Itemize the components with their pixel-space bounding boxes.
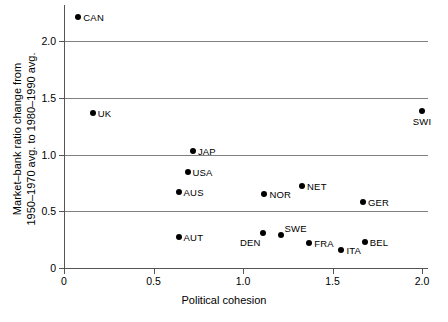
data-point-label: BEL — [370, 236, 389, 247]
data-point — [75, 14, 81, 20]
x-tick — [154, 269, 155, 274]
gridline-y — [64, 98, 428, 99]
y-axis-line — [64, 5, 65, 269]
data-point — [261, 191, 267, 197]
x-tick-label: 1.5 — [325, 275, 340, 287]
y-axis-title: Market–bank ratio change from 1950–1970 … — [10, 0, 38, 279]
data-point — [278, 232, 284, 238]
data-point — [306, 240, 312, 246]
data-point-label: FRA — [314, 238, 334, 249]
data-point-label: AUS — [184, 186, 204, 197]
data-point — [362, 239, 368, 245]
data-point — [419, 108, 425, 114]
y-tick-label: 1.5 — [41, 92, 56, 104]
data-point-label: JAP — [198, 146, 216, 157]
data-point — [360, 199, 366, 205]
data-point-label: SWE — [285, 223, 307, 234]
y-tick-label: 2.0 — [41, 35, 56, 47]
y-axis-title-line2: 1950–1970 avg. to 1980–1990 avg. — [24, 0, 38, 279]
y-axis-title-line1: Market–bank ratio change from — [10, 0, 24, 279]
x-tick — [422, 269, 423, 274]
data-point — [185, 169, 191, 175]
x-tick-label: 2.0 — [415, 275, 430, 287]
data-point-label: ITA — [346, 244, 361, 255]
data-point-label: CAN — [83, 12, 104, 23]
data-point-label: AUT — [184, 232, 204, 243]
x-tick-label: 1.0 — [236, 275, 251, 287]
x-tick — [243, 269, 244, 274]
x-tick — [64, 269, 65, 274]
x-tick-label: 0 — [61, 275, 67, 287]
gridline-y — [64, 41, 428, 42]
y-tick — [59, 98, 64, 99]
y-tick — [59, 211, 64, 212]
data-point-label: NOR — [269, 189, 291, 200]
data-point-label: NET — [307, 181, 327, 192]
data-point-label: USA — [193, 166, 213, 177]
data-point — [176, 234, 182, 240]
data-point-label: GER — [368, 197, 389, 208]
gridline-y — [64, 211, 428, 212]
x-tick — [333, 269, 334, 274]
data-point — [176, 189, 182, 195]
scatter-chart: 00.51.01.52.000.51.01.52.0 CANUKSWIJAPUS… — [0, 0, 448, 322]
data-point-label: DEN — [240, 237, 261, 248]
data-point — [190, 148, 196, 154]
data-point — [299, 183, 305, 189]
y-tick — [59, 155, 64, 156]
y-tick — [59, 41, 64, 42]
x-axis-title: Political cohesion — [0, 294, 448, 306]
x-tick-label: 0.5 — [146, 275, 161, 287]
data-point-label: SWI — [413, 116, 432, 127]
data-point — [90, 110, 96, 116]
x-axis-line — [64, 268, 428, 269]
gridline-y — [64, 155, 428, 156]
data-point — [260, 230, 266, 236]
y-tick-label: 0.5 — [41, 205, 56, 217]
y-tick-label: 1.0 — [41, 149, 56, 161]
data-point-label: UK — [98, 107, 112, 118]
data-point — [338, 247, 344, 253]
y-tick-label: 0 — [50, 262, 56, 274]
